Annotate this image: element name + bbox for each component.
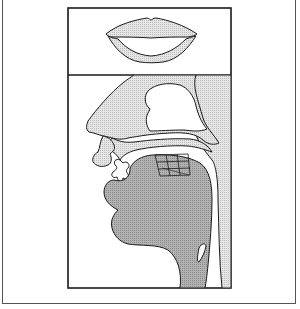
articulation-diagram <box>0 0 300 309</box>
